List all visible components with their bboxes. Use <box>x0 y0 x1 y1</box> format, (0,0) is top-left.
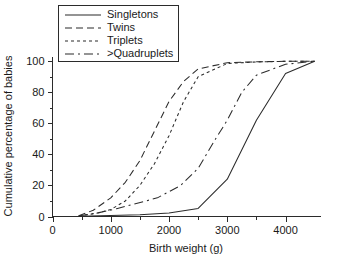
x-axis-tick-labels: 01000200030004000 <box>49 224 297 236</box>
cumulative-birth-weight-chart: 01000200030004000 020406080100 Birth wei… <box>0 0 337 263</box>
legend-label-3: Triplets <box>107 34 143 46</box>
legend-label-4: >Quadruplets <box>107 47 174 59</box>
x-axis-title: Birth weight (g) <box>149 242 223 254</box>
x-tick-label: 4000 <box>273 224 297 236</box>
y-tick-label: 0 <box>38 211 44 223</box>
legend-label-2: Twins <box>107 21 136 33</box>
y-tick-label: 20 <box>32 179 44 191</box>
y-axis-tick-labels: 020406080100 <box>26 55 44 222</box>
chart-figure: 01000200030004000 020406080100 Birth wei… <box>0 0 337 263</box>
legend-label-1: Singletons <box>107 8 159 20</box>
x-tick-label: 1000 <box>99 224 123 236</box>
y-tick-label: 60 <box>32 117 44 129</box>
data-series-group <box>79 61 315 216</box>
series-line-singletons <box>79 61 315 216</box>
y-tick-label: 100 <box>26 55 44 67</box>
legend: SingletonsTwinsTriplets>Quadruplets <box>59 6 179 62</box>
y-axis-ticks <box>48 62 53 218</box>
x-tick-label: 0 <box>49 224 55 236</box>
x-axis-ticks <box>54 217 287 222</box>
y-tick-label: 80 <box>32 86 44 98</box>
y-tick-label: 40 <box>32 148 44 160</box>
plot-axes <box>53 57 321 217</box>
y-axis-title: Cumulative percentage of babies <box>2 55 14 216</box>
x-tick-label: 3000 <box>215 224 239 236</box>
x-tick-label: 2000 <box>157 224 181 236</box>
